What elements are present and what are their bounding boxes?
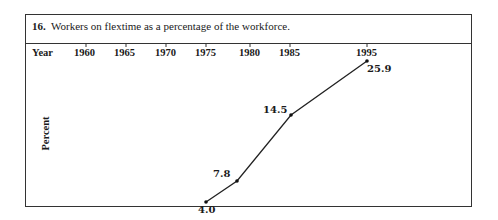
point-1985: [289, 113, 293, 117]
data-label-1980: 7.8: [213, 168, 230, 179]
data-label-1975: 4.0: [198, 204, 215, 215]
line-plot: [0, 0, 498, 220]
data-label-1995: 25.9: [367, 63, 391, 74]
data-line: [206, 61, 367, 202]
data-label-1985: 14.5: [263, 104, 287, 115]
point-1980: [235, 179, 239, 183]
